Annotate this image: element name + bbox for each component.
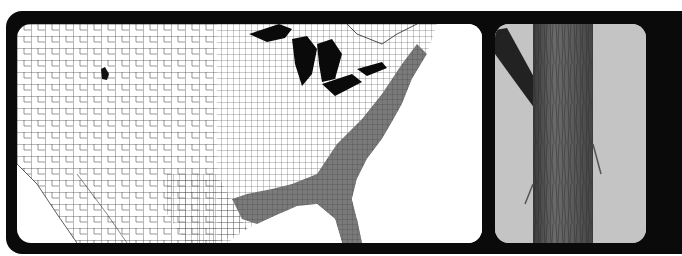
range-map-panel [17,24,482,243]
bark-photo-panel [495,24,646,243]
bark-photo [495,24,646,243]
range-map [17,24,482,243]
page-top-margin [18,0,682,10]
